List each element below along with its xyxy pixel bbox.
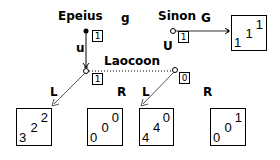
payoff-box-left-R: 0 0 0 <box>87 108 123 146</box>
info-set-badge-epeius: 1 <box>92 30 103 42</box>
payoff-value: 0 <box>213 131 220 144</box>
payoff-value: 1 <box>235 111 242 124</box>
payoff-value: 0 <box>224 121 231 134</box>
payoff-value: 0 <box>112 111 119 124</box>
laocoon-left-node <box>84 69 89 74</box>
edge-laocoon-left-L <box>54 73 85 104</box>
info-set-badge-sinon: 1 <box>178 31 189 43</box>
payoff-box-right-L: 0 4 4 <box>139 108 174 146</box>
payoff-value: 1 <box>256 18 263 31</box>
payoff-value: 0 <box>90 131 97 144</box>
edge-label-left-R: R <box>117 86 126 98</box>
info-set-badge-laocoon-right: 0 <box>179 72 190 84</box>
payoff-box-right-R: 1 0 0 <box>210 108 246 146</box>
payoff-box-left-L: 2 2 3 <box>16 108 52 146</box>
move-label-G: G <box>201 12 211 24</box>
payoff-value: 1 <box>245 27 252 40</box>
player-label-epeius: Epeius <box>58 10 103 22</box>
edge-label-u: u <box>76 42 85 54</box>
sinon-node <box>171 29 176 34</box>
epeius-node <box>84 29 89 34</box>
edge-label-right-L: L <box>142 86 150 98</box>
edge-label-right-R: R <box>203 86 212 98</box>
edge-label-left-L: L <box>50 86 58 98</box>
payoff-value: 3 <box>19 131 26 144</box>
payoff-value: 0 <box>101 121 108 134</box>
edge-label-U: U <box>163 40 173 52</box>
player-label-sinon: Sinon <box>158 10 196 22</box>
payoff-value: 0 <box>163 111 170 124</box>
move-label-g: g <box>121 12 130 24</box>
payoff-value: 4 <box>153 121 160 134</box>
payoff-box-sinon-G: 1 1 1 <box>231 15 267 51</box>
laocoon-right-node <box>173 68 178 73</box>
payoff-value: 4 <box>142 131 149 144</box>
payoff-value: 1 <box>234 36 241 49</box>
info-set-badge-laocoon-left: 1 <box>92 73 103 85</box>
player-label-laocoon: Laocoon <box>104 55 160 67</box>
payoff-value: 2 <box>41 111 48 124</box>
payoff-value: 2 <box>30 121 37 134</box>
